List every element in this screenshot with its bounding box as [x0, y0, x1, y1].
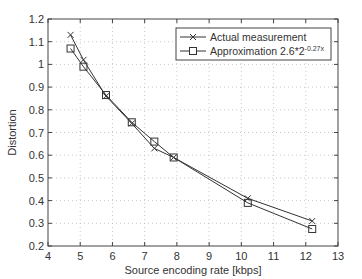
y-tick-label: 0.3: [29, 217, 44, 229]
x-tick-label: 4: [45, 250, 51, 262]
y-tick-label: 0.4: [29, 195, 44, 207]
y-tick-label: 0.2: [29, 240, 44, 252]
legend-marker-square-icon: [190, 48, 197, 55]
legend-label-approximation-exponent: -0.27x: [305, 45, 325, 52]
distortion-chart: 456789101112130.20.30.40.50.60.70.80.911…: [0, 0, 362, 279]
x-tick-label: 6: [109, 250, 115, 262]
x-tick-label: 8: [174, 250, 180, 262]
data-point-x-marker: [151, 145, 157, 151]
legend-label-approximation-base: Approximation 2.6*2: [210, 45, 305, 57]
x-tick-label: 10: [235, 250, 247, 262]
x-tick-label: 13: [332, 250, 344, 262]
data-point-x-marker: [245, 195, 251, 201]
x-tick-label: 7: [142, 250, 148, 262]
legend: Actual measurement Approximation 2.6*2-0…: [176, 28, 331, 60]
x-tick-label: 12: [300, 250, 312, 262]
y-tick-label: 0.5: [29, 172, 44, 184]
data-point-x-marker: [80, 57, 86, 63]
y-tick-label: 0.9: [29, 81, 44, 93]
y-axis-label: Distortion: [6, 109, 18, 155]
series-line-actual: [71, 35, 313, 221]
x-tick-label: 5: [77, 250, 83, 262]
series-line-approximation: [71, 49, 313, 229]
x-tick-label: 9: [206, 250, 212, 262]
data-point-x-marker: [68, 32, 74, 38]
x-tick-label: 11: [268, 250, 279, 262]
y-tick-label: 1.1: [29, 36, 44, 48]
y-tick-label: 1: [38, 58, 44, 70]
y-tick-label: 0.6: [29, 149, 44, 161]
x-axis-label: Source encoding rate [kbps]: [125, 264, 262, 276]
legend-label-actual: Actual measurement: [210, 31, 306, 43]
y-tick-label: 0.7: [29, 127, 44, 139]
y-tick-label: 1.2: [29, 13, 44, 25]
y-tick-label: 0.8: [29, 104, 44, 116]
